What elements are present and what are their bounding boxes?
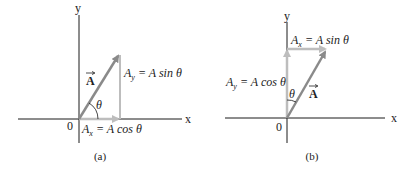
ax-label: Ax = A cos θ <box>81 122 142 138</box>
panel-a: y x 0 A θ Ay = A sin θ Ax = A cos θ (a) <box>18 1 191 163</box>
origin-label: 0 <box>67 119 73 133</box>
ax-label: Ax = A sin θ <box>290 33 349 49</box>
svg-text:A: A <box>309 87 318 101</box>
svg-text:A: A <box>86 74 95 88</box>
vector-a-label: A <box>309 85 318 102</box>
angle-label: θ <box>96 98 102 112</box>
x-axis-label: x <box>185 112 191 126</box>
caption-a: (a) <box>94 150 107 163</box>
ay-label: Ay = A sin θ <box>123 66 182 82</box>
x-axis-label: x <box>391 111 397 125</box>
y-axis-label: y <box>75 1 81 15</box>
y-axis-label: y <box>284 9 290 23</box>
vector-components-diagram: y x 0 A θ Ay = A sin θ Ax = A cos θ (a) … <box>0 0 402 175</box>
panel-b: y x 0 θ A Ax = A sin θ Ay = A cos θ (b) <box>225 9 397 163</box>
caption-b: (b) <box>306 150 319 163</box>
vector-a-arrow <box>287 52 325 118</box>
angle-label: θ <box>289 87 295 101</box>
vector-a-label: A <box>86 72 95 89</box>
ay-label: Ay = A cos θ <box>225 75 286 91</box>
origin-label: 0 <box>276 120 282 134</box>
